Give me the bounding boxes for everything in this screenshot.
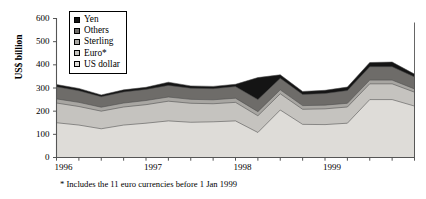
legend-swatch-icon xyxy=(74,50,80,56)
legend-label: Yen xyxy=(84,15,99,24)
chart-footnote: * Includes the 11 euro currencies before… xyxy=(60,179,237,189)
chart-legend: YenOthersSterlingEuro*US dollar xyxy=(69,11,127,74)
legend-label: Euro* xyxy=(84,49,107,58)
legend-label: US dollar xyxy=(84,60,120,69)
legend-swatch-icon xyxy=(74,39,80,45)
stacked-area-plot xyxy=(0,0,426,199)
legend-swatch-icon xyxy=(74,61,80,67)
legend-item-others: Others xyxy=(74,25,120,36)
legend-swatch-icon xyxy=(74,28,80,34)
legend-label: Others xyxy=(84,26,109,35)
legend-item-yen: Yen xyxy=(74,14,120,25)
legend-item-sterling: Sterling xyxy=(74,36,120,47)
legend-item-us-dollar: US dollar xyxy=(74,59,120,70)
legend-label: Sterling xyxy=(84,37,113,46)
legend-swatch-icon xyxy=(74,17,80,23)
chart-figure: US$ billion 0100200300400500600 19961997… xyxy=(0,0,426,199)
legend-item-euro: Euro* xyxy=(74,48,120,59)
area-series-group xyxy=(57,62,415,157)
